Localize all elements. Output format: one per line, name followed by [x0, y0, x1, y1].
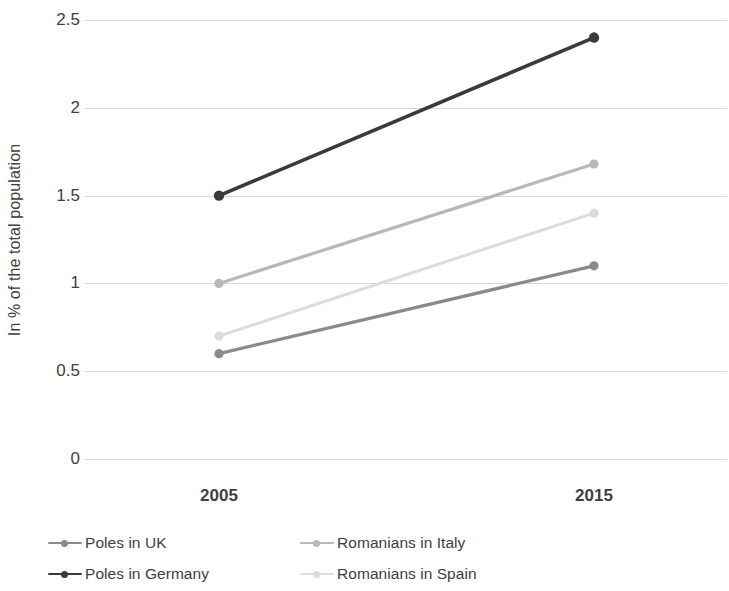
- data-point: [214, 331, 223, 340]
- legend-marker-icon: [300, 568, 334, 580]
- y-axis-tick-label: 0.5: [28, 361, 80, 381]
- y-axis-tick-labels: 00.511.522.5: [28, 0, 80, 480]
- line-chart: In % of the total population 00.511.522.…: [0, 0, 729, 591]
- series-layer: [85, 0, 727, 480]
- y-axis-tick-label: 2.5: [28, 10, 80, 30]
- data-point: [214, 279, 223, 288]
- series-romanians-in-spain: [214, 209, 598, 341]
- x-axis-tick-label: 2005: [200, 486, 238, 506]
- legend-label: Romanians in Italy: [337, 534, 465, 552]
- legend-label: Poles in Germany: [85, 565, 209, 583]
- data-point: [589, 261, 598, 270]
- legend-marker-icon: [300, 537, 334, 549]
- plot-area: [85, 0, 727, 480]
- legend-label: Poles in UK: [85, 534, 167, 552]
- y-axis-title: In % of the total population: [2, 0, 28, 480]
- y-axis-tick-label: 1.5: [28, 186, 80, 206]
- legend-label: Romanians in Spain: [337, 565, 477, 583]
- series-line: [219, 164, 594, 283]
- y-axis-tick-label: 1: [28, 273, 80, 293]
- data-point: [589, 209, 598, 218]
- legend-marker-icon: [48, 568, 82, 580]
- data-point: [589, 159, 598, 168]
- legend-item[interactable]: Romanians in Spain: [300, 558, 708, 589]
- y-axis-tick-label: 2: [28, 98, 80, 118]
- series-line: [219, 213, 594, 336]
- y-axis-tick-label: 0: [28, 449, 80, 469]
- series-poles-in-germany: [214, 32, 599, 200]
- legend-item[interactable]: Romanians in Italy: [300, 527, 708, 558]
- x-axis-tick-label: 2015: [575, 486, 613, 506]
- series-line: [219, 38, 594, 196]
- data-point: [214, 190, 224, 200]
- x-axis-tick-labels: 20052015: [85, 482, 727, 516]
- legend-marker-icon: [48, 537, 82, 549]
- data-point: [589, 32, 599, 42]
- series-line: [219, 266, 594, 354]
- legend-item[interactable]: Poles in UK: [48, 527, 300, 558]
- legend: Poles in UKRomanians in ItalyPoles in Ge…: [48, 527, 708, 589]
- data-point: [214, 349, 223, 358]
- legend-item[interactable]: Poles in Germany: [48, 558, 300, 589]
- series-romanians-in-italy: [214, 159, 598, 288]
